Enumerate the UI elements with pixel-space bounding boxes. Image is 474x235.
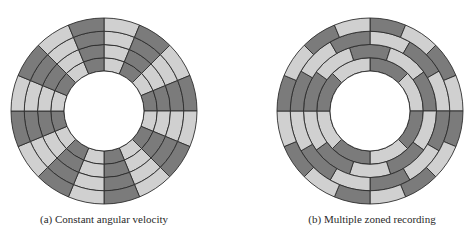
disk-layout-figure bbox=[0, 0, 474, 235]
spindle-hole bbox=[64, 71, 144, 151]
mzr-disk bbox=[277, 18, 463, 204]
cav-disk bbox=[11, 18, 197, 204]
caption-constant-angular-velocity: (a) Constant angular velocity bbox=[40, 213, 168, 226]
sector bbox=[349, 162, 390, 178]
sector bbox=[349, 44, 390, 60]
caption-multiple-zoned-recording: (b) Multiple zoned recording bbox=[308, 213, 435, 226]
spindle-hole bbox=[330, 71, 410, 151]
